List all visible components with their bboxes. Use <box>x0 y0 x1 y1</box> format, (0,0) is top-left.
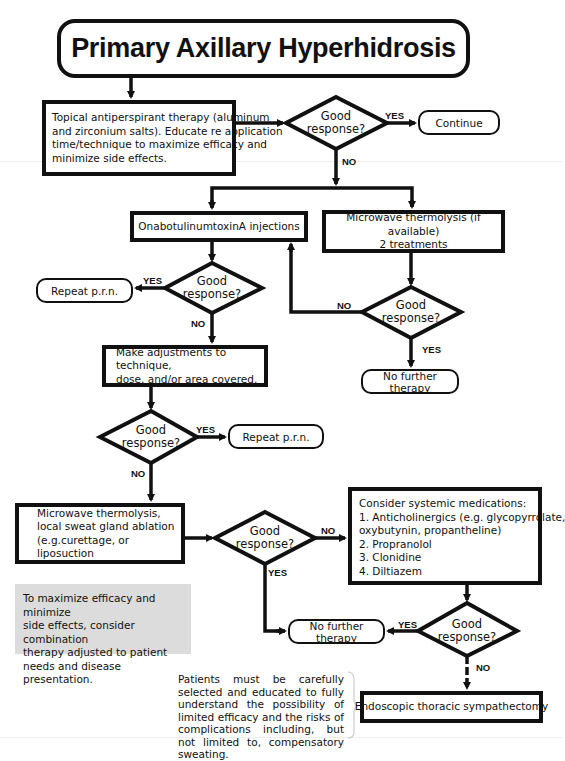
no-further-therapy-box-1: No further therapy <box>361 369 459 394</box>
edge-label-yes: YES <box>422 344 441 355</box>
text-line: 3. Clonidine <box>359 551 565 565</box>
microwave-thermolysis-box: Microwave thermolysis (if available) 2 t… <box>322 210 505 253</box>
edge-label-yes: YES <box>143 275 162 286</box>
text-line: To maximize efficacy and minimize <box>23 592 183 619</box>
continue-box: Continue <box>418 110 500 135</box>
text-line: dose, and/or area covered. <box>116 373 264 387</box>
decision-label-4: Goodresponse? <box>111 424 191 450</box>
text-line: 1. Anticholinergics (e.g. glycopyrrolate… <box>359 511 565 525</box>
title-box: Primary Axillary Hyperhidrosis <box>57 19 470 78</box>
topical-therapy-box: Topical antiperspirant therapy (aluminum… <box>42 100 236 176</box>
edge-label-yes: YES <box>385 110 404 121</box>
edge-label-no: NO <box>337 300 351 311</box>
decision-label-2: Goodresponse? <box>172 275 252 301</box>
text-line: (e.g.curettage, or liposuction <box>37 534 181 561</box>
patient-selection-note: Patients must be carefully selected and … <box>178 673 344 761</box>
text-line: side effects, consider combination <box>23 619 183 646</box>
repeat-prn-box-2: Repeat p.r.n. <box>228 424 324 449</box>
text-line: Make adjustments to technique, <box>116 346 264 373</box>
edge-label-no: NO <box>342 156 356 167</box>
page-title: Primary Axillary Hyperhidrosis <box>71 33 456 64</box>
edge-label-no: NO <box>321 525 335 536</box>
combination-therapy-note: To maximize efficacy and minimize side e… <box>15 584 191 654</box>
text-line: and zirconium salts). Educate re applica… <box>52 125 283 139</box>
local-ablation-box: Microwave thermolysis, local sweat gland… <box>15 503 185 564</box>
adjustments-box: Make adjustments to technique, dose, and… <box>102 345 268 387</box>
text-line: needs and disease presentation. <box>23 660 183 687</box>
no-further-therapy-box-2: No further therapy <box>288 619 385 644</box>
decision-label-3: Goodresponse? <box>371 299 451 325</box>
text-line: therapy adjusted to patient <box>23 646 183 660</box>
decision-label-6: Goodresponse? <box>427 618 507 644</box>
text-line: 2 treatments <box>326 238 501 252</box>
text-line: Topical antiperspirant therapy (aluminum <box>52 111 283 125</box>
text-line: Microwave thermolysis, <box>37 507 181 521</box>
text-line: 2. Propranolol <box>359 538 565 552</box>
text-line: local sweat gland ablation <box>37 520 181 534</box>
edge-label-yes: YES <box>268 567 287 578</box>
text-line: time/technique to maximize efficacy and <box>52 138 283 152</box>
text-line: oxybutynin, propantheline) <box>359 524 565 538</box>
decision-label-1: Goodresponse? <box>296 110 376 136</box>
edge-label-yes: YES <box>196 424 215 435</box>
ets-box: Endoscopic thoracic sympathectomy <box>360 691 543 723</box>
text-line: minimize side effects. <box>52 152 283 166</box>
edge-label-no: NO <box>476 662 490 673</box>
text-line: Microwave thermolysis (if available) <box>326 211 501 238</box>
repeat-prn-box-1: Repeat p.r.n. <box>36 278 133 303</box>
decision-label-5: Goodresponse? <box>225 525 305 551</box>
text-line: Consider systemic medications: <box>359 497 565 511</box>
edge-label-no: NO <box>191 318 205 329</box>
systemic-medications-box: Consider systemic medications: 1. Antich… <box>348 487 542 585</box>
text-line: 4. Diltiazem <box>359 565 565 579</box>
onabotulinumtoxina-box: OnabotulinumtoxinA injections <box>130 211 308 242</box>
edge-label-no: NO <box>131 468 145 479</box>
edge-label-yes: YES <box>398 619 417 630</box>
